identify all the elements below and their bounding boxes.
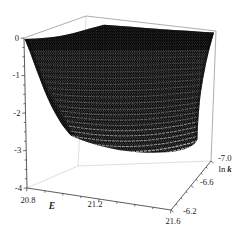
x-tick-label: 20.8 — [20, 195, 35, 205]
y-tick-label: -7.0 — [218, 153, 232, 163]
y-tick-label: -6.6 — [200, 177, 214, 187]
surface-plot-figure: 0-1-2-3-420.821.221.6-6.2-6.6-7.0 E lnk — [0, 0, 245, 241]
z-tick-label: -3 — [14, 145, 21, 155]
z-tick-label: 0 — [15, 33, 19, 43]
x-axis-title: E — [48, 201, 55, 211]
x-tick-label: 21.6 — [165, 216, 181, 226]
y-axis-title-prefix: ln — [219, 164, 226, 174]
x-tick-label: 21.2 — [87, 199, 102, 209]
z-tick-label: -1 — [13, 70, 20, 80]
y-tick-label: -6.2 — [183, 206, 197, 216]
z-tick-label: -2 — [13, 108, 20, 118]
z-tick-label: -4 — [15, 183, 23, 193]
y-axis-title-symbol: k — [227, 164, 232, 174]
